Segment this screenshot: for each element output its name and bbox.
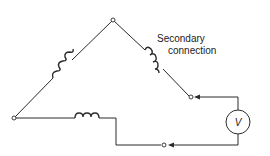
left-winding — [15, 21, 112, 117]
top-node — [111, 18, 115, 22]
arrow-upper-icon — [194, 95, 200, 100]
left-coil-icon — [53, 49, 74, 78]
arrow-lower-icon — [168, 143, 174, 148]
delta-secondary-diagram: V Secondary connection — [0, 0, 270, 156]
bottom-terminal — [162, 143, 166, 147]
label-secondary: Secondary — [157, 33, 205, 44]
bottom-coil-icon — [75, 113, 99, 118]
bottom-winding — [16, 113, 161, 145]
left-node — [12, 116, 16, 120]
voltmeter: V — [226, 110, 250, 134]
right-coil-icon — [145, 47, 159, 73]
upper-right-terminal — [189, 95, 193, 99]
label-connection: connection — [168, 45, 216, 56]
